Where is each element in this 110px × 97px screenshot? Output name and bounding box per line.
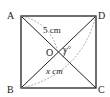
vertex-label-d: D bbox=[98, 10, 105, 21]
vertex-label-b: B bbox=[7, 84, 14, 95]
vertex-label-o: O bbox=[46, 47, 53, 58]
vertex-label-a: A bbox=[7, 10, 15, 21]
length-label-bd: x cm bbox=[45, 66, 63, 76]
square-diagram: A D B C O 5 cm x cm y° bbox=[0, 0, 110, 97]
angle-label-y: y° bbox=[63, 45, 72, 54]
vertex-label-c: C bbox=[98, 84, 105, 95]
length-label-ao: 5 cm bbox=[43, 25, 61, 35]
